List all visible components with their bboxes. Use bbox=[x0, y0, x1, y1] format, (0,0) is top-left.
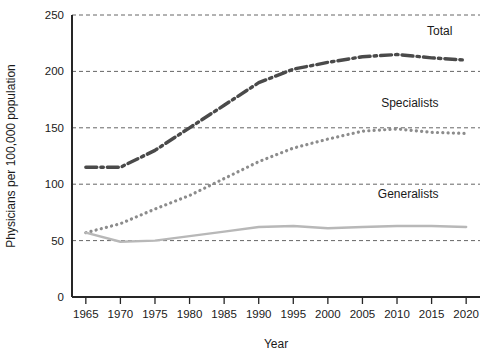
x-axis-tick-label-1985: 1985 bbox=[211, 308, 237, 320]
x-axis-tick-label-2005: 2005 bbox=[350, 308, 376, 320]
x-axis-title: Year bbox=[264, 337, 288, 351]
y-axis-tick-label-50: 50 bbox=[51, 235, 64, 247]
y-axis-title: Physicians per 100,000 population bbox=[4, 64, 18, 247]
series-line-specialists bbox=[86, 129, 466, 233]
x-axis-tick-label-2020: 2020 bbox=[453, 308, 479, 320]
x-axis-tick-label-1980: 1980 bbox=[177, 308, 203, 320]
x-axis-tick-labels-group: 1965197019751980198519901995200020052010… bbox=[73, 308, 479, 320]
x-axis-ticks-group bbox=[86, 297, 466, 304]
series-inline-labels-group: TotalSpecialistsGeneralists bbox=[378, 24, 453, 200]
y-axis-tick-label-100: 100 bbox=[45, 178, 64, 190]
y-axis-tick-label-150: 150 bbox=[45, 122, 64, 134]
y-axis-tick-label-250: 250 bbox=[45, 9, 64, 21]
y-axis-tick-labels-group: 050100150200250 bbox=[45, 9, 64, 303]
x-axis-tick-label-1965: 1965 bbox=[73, 308, 99, 320]
x-axis-tick-label-1995: 1995 bbox=[280, 308, 306, 320]
chart-canvas: 050100150200250 196519701975198019851990… bbox=[0, 0, 500, 355]
x-axis-tick-label-1975: 1975 bbox=[142, 308, 168, 320]
series-label-total: Total bbox=[427, 24, 452, 38]
x-axis-tick-label-1990: 1990 bbox=[246, 308, 272, 320]
y-axis-tick-label-200: 200 bbox=[45, 65, 64, 77]
y-axis-tick-label-0: 0 bbox=[58, 291, 64, 303]
x-axis-tick-label-2010: 2010 bbox=[384, 308, 410, 320]
x-axis-tick-label-2000: 2000 bbox=[315, 308, 341, 320]
series-label-specialists: Specialists bbox=[381, 96, 438, 110]
series-line-generalists bbox=[86, 226, 466, 242]
series-label-generalists: Generalists bbox=[378, 187, 439, 201]
physicians-per-capita-line-chart: 050100150200250 196519701975198019851990… bbox=[0, 0, 500, 355]
x-axis-tick-label-2015: 2015 bbox=[419, 308, 445, 320]
data-series-group bbox=[86, 54, 466, 241]
gridlines-group bbox=[72, 15, 480, 241]
x-axis-tick-label-1970: 1970 bbox=[108, 308, 134, 320]
